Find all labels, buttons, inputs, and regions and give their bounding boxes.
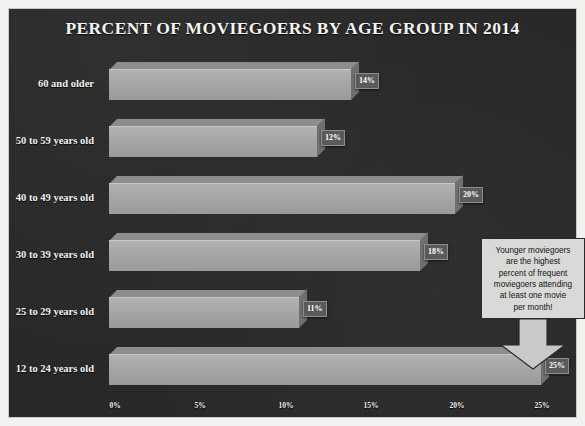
bar-60-and-older[interactable]: 14% xyxy=(109,62,351,100)
bar-50-to-59[interactable]: 12% xyxy=(109,119,317,157)
callout-line: percent of frequent xyxy=(486,268,580,279)
bar-30-to-39[interactable]: 18% xyxy=(109,233,420,271)
bar-row: 50 to 59 years old 12% xyxy=(101,111,569,168)
callout-line: Younger moviegoers xyxy=(486,245,580,256)
bar-12-to-24[interactable]: 25% xyxy=(109,347,541,385)
bar-40-to-49[interactable]: 20% xyxy=(109,176,455,214)
callout-line: at least one movie xyxy=(486,290,580,301)
callout-line: moviegoers attending xyxy=(486,279,580,290)
category-label: 12 to 24 years old xyxy=(16,362,94,373)
bar-value-label: 18% xyxy=(424,244,448,260)
bar-value-label: 20% xyxy=(459,187,483,203)
x-tick-label: 0% xyxy=(109,401,120,410)
bar-25-to-29[interactable]: 11% xyxy=(109,290,299,328)
callout-line: per month! xyxy=(486,302,580,313)
bar-front-face xyxy=(109,297,299,328)
callout-text-box: Younger moviegoers are the highest perce… xyxy=(481,238,585,319)
down-arrow-icon xyxy=(481,319,585,371)
x-tick-label: 15% xyxy=(364,401,379,410)
category-label: 60 and older xyxy=(38,77,94,88)
category-label: 50 to 59 years old xyxy=(16,134,94,145)
bar-row: 60 and older 14% xyxy=(101,54,569,111)
x-tick-label: 10% xyxy=(279,401,294,410)
category-label: 40 to 49 years old xyxy=(16,191,94,202)
bar-value-label: 12% xyxy=(321,130,345,146)
callout-line: are the highest xyxy=(486,256,580,267)
x-tick-label: 25% xyxy=(535,401,550,410)
bar-value-label: 14% xyxy=(355,73,379,89)
chart-title: PERCENT OF MOVIEGOERS BY AGE GROUP IN 20… xyxy=(9,18,576,39)
x-tick-label: 20% xyxy=(450,401,465,410)
x-tick-label: 5% xyxy=(194,401,205,410)
chart-screenshot: PERCENT OF MOVIEGOERS BY AGE GROUP IN 20… xyxy=(0,0,585,426)
bar-front-face xyxy=(109,126,317,157)
chart-frame: PERCENT OF MOVIEGOERS BY AGE GROUP IN 20… xyxy=(8,8,577,418)
bar-row: 40 to 49 years old 20% xyxy=(101,168,569,225)
bar-value-label: 11% xyxy=(303,301,327,317)
category-label: 30 to 39 years old xyxy=(16,248,94,259)
bar-front-face xyxy=(109,354,541,385)
bar-front-face xyxy=(109,183,455,214)
bar-front-face xyxy=(109,69,351,100)
younger-moviegoers-callout: Younger moviegoers are the highest perce… xyxy=(481,238,585,371)
category-label: 25 to 29 years old xyxy=(16,305,94,316)
x-axis: 0% 5% 10% 15% 20% 25% xyxy=(101,401,569,421)
bar-front-face xyxy=(109,240,420,271)
